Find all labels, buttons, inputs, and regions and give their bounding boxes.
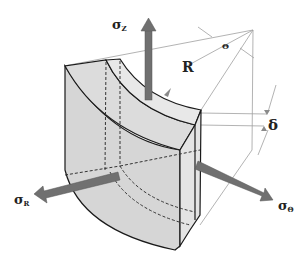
sigma-symbol: σ [112,17,122,32]
subscript-r: R [24,199,30,208]
radius-arrowhead [164,88,171,97]
delta-arrowhead-bottom [261,126,267,131]
subscript-theta: Θ [288,205,294,214]
sigma-symbol: σ [14,192,24,207]
subscript-z: Z [122,24,127,33]
sigma-theta-label: σΘ [278,199,294,213]
sigma-symbol: σ [278,198,288,213]
stress-element-diagram [0,0,308,271]
angle-label: Θ [222,42,229,50]
sigma-theta-arrow [195,161,273,201]
sigma-r-label: σR [14,193,29,207]
delta-label: δ [268,118,278,133]
sigma-z-label: σZ [112,18,127,32]
radius-label: R [182,60,194,74]
